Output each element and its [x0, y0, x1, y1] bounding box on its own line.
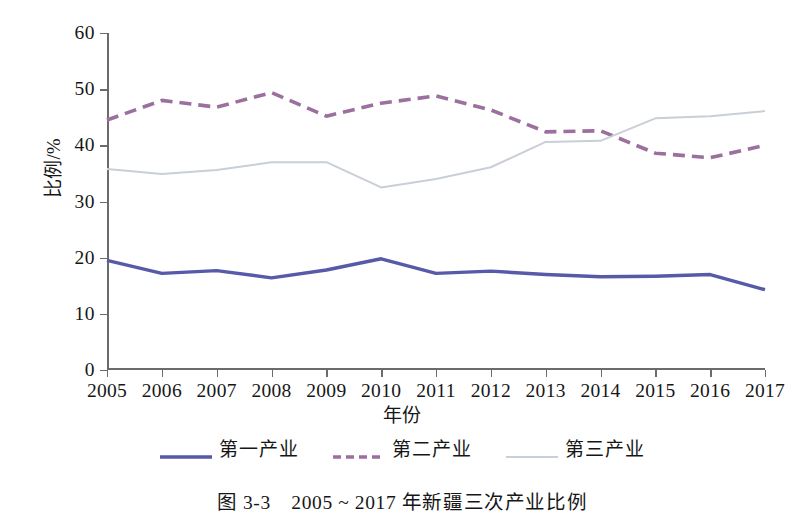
y-axis-tick — [100, 33, 107, 34]
x-axis-tick-label: 2007 — [197, 380, 237, 402]
x-axis-tick — [655, 370, 656, 377]
y-axis-tick — [100, 145, 107, 146]
series-plot — [107, 33, 765, 370]
chart-legend: 第一产业第二产业第三产业 — [0, 434, 804, 461]
x-axis-tick — [107, 370, 108, 377]
y-axis-tick-label: 50 — [35, 78, 95, 100]
x-axis-tick — [765, 370, 766, 377]
y-axis-tick-label: 0 — [35, 359, 95, 381]
x-axis-tick-label: 2005 — [87, 380, 127, 402]
x-axis-tick-label: 2015 — [635, 380, 675, 402]
x-axis-tick-label: 2011 — [416, 380, 455, 402]
y-axis-tick — [100, 370, 107, 371]
legend-item-2[interactable]: 第二产业 — [333, 434, 472, 461]
figure-container: 0102030405060 20052006200720082009201020… — [0, 0, 804, 530]
x-axis-tick — [491, 370, 492, 377]
x-axis-tick — [326, 370, 327, 377]
x-axis-tick-label: 2008 — [251, 380, 291, 402]
x-axis-tick — [546, 370, 547, 377]
x-axis-tick-label: 2013 — [526, 380, 566, 402]
series-line-2 — [107, 93, 765, 158]
legend-swatch-icon — [506, 446, 558, 450]
legend-swatch-icon — [333, 446, 385, 450]
legend-label: 第三产业 — [565, 434, 645, 461]
legend-label: 第一产业 — [219, 434, 299, 461]
y-axis-tick — [100, 258, 107, 259]
x-axis-title: 年份 — [0, 400, 804, 427]
legend-item-1[interactable]: 第一产业 — [160, 434, 299, 461]
x-axis-tick-label: 2006 — [142, 380, 182, 402]
y-axis-tick-label: 10 — [35, 303, 95, 325]
x-axis-tick-label: 2016 — [690, 380, 730, 402]
legend-label: 第二产业 — [392, 434, 472, 461]
x-axis-tick — [381, 370, 382, 377]
x-axis-tick — [272, 370, 273, 377]
x-axis-tick-label: 2010 — [361, 380, 401, 402]
x-axis-tick — [217, 370, 218, 377]
x-axis-tick-label: 2017 — [745, 380, 785, 402]
y-axis-title: 比例/% — [38, 138, 65, 197]
legend-swatch-icon — [160, 446, 212, 450]
legend-item-3[interactable]: 第三产业 — [506, 434, 645, 461]
x-axis-tick — [601, 370, 602, 377]
y-axis-tick — [100, 314, 107, 315]
y-axis-tick-label: 60 — [35, 22, 95, 44]
x-axis-tick — [710, 370, 711, 377]
x-axis-tick-label: 2014 — [580, 380, 620, 402]
x-axis-tick-label: 2009 — [306, 380, 346, 402]
series-line-3 — [107, 111, 765, 187]
figure-caption: 图 3-3 2005 ~ 2017 年新疆三次产业比例 — [0, 486, 804, 515]
x-axis-tick — [436, 370, 437, 377]
x-axis-tick-label: 2012 — [471, 380, 511, 402]
series-line-1 — [107, 259, 765, 290]
y-axis-tick — [100, 89, 107, 90]
y-axis-tick-label: 20 — [35, 247, 95, 269]
y-axis-tick — [100, 202, 107, 203]
x-axis-tick — [162, 370, 163, 377]
plot-area: 0102030405060 20052006200720082009201020… — [107, 33, 765, 370]
